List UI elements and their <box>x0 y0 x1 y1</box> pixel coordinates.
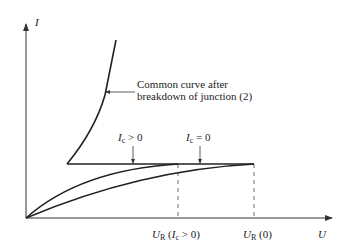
annotation-line1: Common curve after <box>137 78 252 90</box>
y-axis-label: I <box>35 16 39 28</box>
label-ic-positive: Ic > 0 <box>118 131 142 147</box>
curve-ic-zero <box>26 164 254 218</box>
label-ic-zero: Ic = 0 <box>186 131 210 147</box>
x-axis-label: U <box>318 228 326 240</box>
tick-ug-ic: UR (Ic > 0) <box>152 228 200 244</box>
breakdown-curve <box>67 40 116 164</box>
diagram-canvas <box>0 0 348 248</box>
tick-ug-0: UR (0) <box>243 228 272 244</box>
annotation-line2: breakdown of junction (2) <box>137 90 252 102</box>
annotation-text: Common curve after breakdown of junction… <box>137 78 252 102</box>
